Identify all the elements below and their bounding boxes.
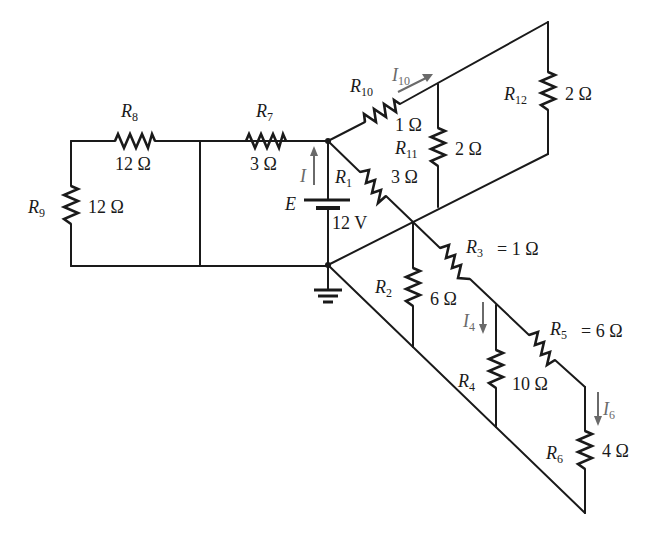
label-e: E	[285, 195, 296, 213]
label-current-i: I	[300, 167, 306, 185]
value-r9: 12 Ω	[88, 198, 124, 216]
value-r2: 6 Ω	[430, 290, 457, 308]
label-r12: R12	[504, 85, 527, 106]
resistor-r8	[115, 134, 155, 148]
current-i4-arrow	[479, 302, 487, 334]
resistor-r2	[406, 268, 420, 306]
label-r1: R1	[335, 168, 352, 189]
label-current-i4: I4	[463, 312, 475, 333]
label-current-i6: I6	[603, 400, 615, 421]
label-r2: R2	[375, 278, 392, 299]
label-r3: R3	[466, 238, 483, 259]
value-r5: = 6 Ω	[581, 322, 623, 340]
value-r10: 1 Ω	[395, 116, 422, 134]
value-r6: 4 Ω	[602, 442, 629, 460]
value-r7: 3 Ω	[250, 155, 277, 173]
resistor-r4	[489, 350, 503, 388]
circuit-schematic	[0, 0, 663, 540]
resistor-r11	[431, 128, 445, 166]
label-r8: R8	[121, 102, 138, 123]
resistor-r1	[360, 170, 386, 203]
circuit-diagram: R8 12 Ω R7 3 Ω R9 12 Ω I E 12 V R10 1 Ω …	[0, 0, 663, 540]
current-i6-arrow	[594, 392, 602, 426]
label-current-i10: I10	[392, 66, 410, 87]
ground-icon	[314, 265, 342, 302]
resistor-r6	[578, 431, 592, 469]
label-r4: R4	[458, 372, 475, 393]
label-r7: R7	[256, 102, 273, 123]
value-r4: 10 Ω	[512, 375, 548, 393]
label-r9: R9	[28, 198, 45, 219]
value-r11: 2 Ω	[455, 140, 482, 158]
label-r5: R5	[550, 320, 567, 341]
label-r11: R11	[395, 139, 418, 160]
label-r6: R6	[546, 444, 563, 465]
label-r10: R10	[350, 77, 373, 98]
value-r1: 3 Ω	[391, 168, 418, 186]
battery-e	[304, 141, 350, 265]
value-r3: = 1 Ω	[497, 240, 539, 258]
resistor-r12	[541, 72, 555, 110]
value-r8: 12 Ω	[115, 155, 151, 173]
current-i-arrow	[310, 146, 318, 185]
value-e: 12 V	[332, 214, 367, 232]
value-r12: 2 Ω	[565, 85, 592, 103]
resistor-r9	[64, 186, 78, 224]
